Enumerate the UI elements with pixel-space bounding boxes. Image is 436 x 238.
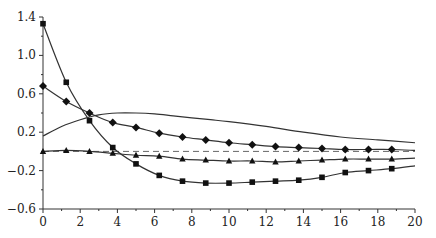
diamond-marker-icon	[225, 139, 233, 147]
square-marker-icon	[249, 179, 255, 185]
x-tick-label: 8	[188, 215, 196, 229]
tick-labels: −0.6−0.20.20.61.01.402468101214161820	[7, 10, 423, 229]
diamond-marker-icon	[202, 136, 210, 144]
diamond-marker-icon	[62, 97, 70, 105]
diamond-marker-icon	[295, 144, 303, 152]
square-marker-icon	[63, 79, 69, 85]
diamond-marker-icon	[341, 145, 349, 153]
diamond-marker-icon	[39, 82, 47, 90]
x-tick-label: 18	[370, 215, 385, 229]
line-chart: −0.6−0.20.20.61.01.402468101214161820	[0, 0, 436, 238]
diamond-marker-icon	[248, 141, 256, 149]
diamond-marker-icon	[109, 119, 117, 127]
x-tick-label: 16	[333, 215, 348, 229]
square-marker-icon	[226, 180, 232, 186]
x-tick-label: 12	[259, 215, 274, 229]
series-group	[39, 21, 415, 186]
x-tick-label: 6	[151, 215, 159, 229]
square-marker-icon	[203, 180, 209, 186]
square-marker-icon	[110, 145, 116, 151]
square-marker-icon	[180, 178, 186, 184]
diamond-marker-icon	[388, 145, 396, 153]
square-marker-icon	[273, 178, 279, 184]
square-marker-icon	[133, 161, 139, 167]
y-tick-label: 0.2	[17, 125, 36, 139]
x-tick-label: 2	[76, 215, 84, 229]
square-marker-icon	[156, 173, 162, 179]
diamond-marker-icon	[132, 123, 140, 131]
x-tick-label: 14	[296, 215, 312, 229]
y-tick-label: 1.4	[17, 10, 36, 24]
x-tick-label: 4	[114, 215, 122, 229]
diamond-marker-icon	[272, 143, 280, 151]
square-marker-icon	[342, 170, 348, 176]
square-marker-icon	[319, 175, 325, 181]
y-tick-label: 1.0	[17, 48, 36, 62]
x-tick-label: 20	[407, 215, 422, 229]
y-tick-label: 0.6	[17, 87, 36, 101]
square-marker-icon	[389, 166, 395, 172]
diamond-marker-icon	[179, 133, 187, 141]
diamond-marker-icon	[365, 145, 373, 153]
square-marker-icon	[40, 21, 46, 27]
square-marker-icon	[87, 118, 93, 124]
square-marker-icon	[296, 177, 302, 183]
y-tick-label: −0.2	[7, 164, 36, 178]
y-tick-label: −0.6	[7, 202, 36, 216]
diamond-marker-icon	[155, 129, 163, 137]
diamond-marker-series	[39, 82, 415, 153]
x-tick-label: 10	[221, 215, 236, 229]
x-tick-label: 0	[39, 215, 47, 229]
square-marker-icon	[366, 168, 372, 174]
